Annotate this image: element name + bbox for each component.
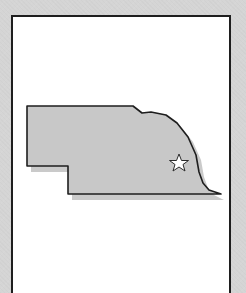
state-outline[interactable]: [27, 106, 221, 194]
state-map: [0, 0, 246, 293]
